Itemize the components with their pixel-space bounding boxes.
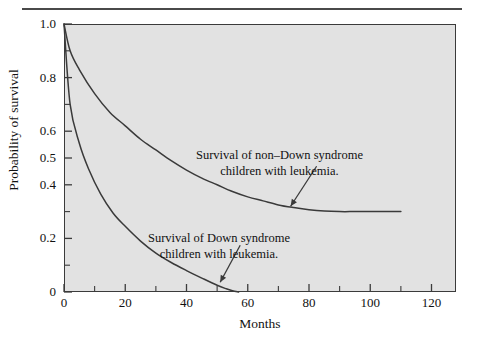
y-tick-label: 0.2 <box>4 231 56 244</box>
curve-series-0 <box>64 24 401 212</box>
x-tick-label: 40 <box>162 296 212 309</box>
annotation-non-down-syndrome-line2: children with leukemia. <box>196 164 363 180</box>
figure-container: 00.20.40.50.60.81.0 020406080100120 Prob… <box>0 0 483 346</box>
x-tick-label: 100 <box>345 296 395 309</box>
annotation-down-syndrome-line1: Survival of Down syndrome <box>148 231 290 247</box>
arrow-non-down-syndrome-head <box>291 199 297 206</box>
annotation-non-down-syndrome: Survival of non–Down syndrome children w… <box>196 148 363 179</box>
y-axis-title: Probability of survival <box>6 50 22 210</box>
x-tick-label: 60 <box>223 296 273 309</box>
annotation-arrows <box>220 166 316 282</box>
x-tick-label: 0 <box>39 296 89 309</box>
annotation-non-down-syndrome-line1: Survival of non–Down syndrome <box>196 148 363 164</box>
y-tick-label: 1.0 <box>4 17 56 30</box>
x-tick-label: 20 <box>100 296 150 309</box>
x-tick-label: 80 <box>284 296 334 309</box>
x-tick-label: 120 <box>407 296 457 309</box>
annotation-down-syndrome-line2: children with leukemia. <box>148 247 290 263</box>
annotation-down-syndrome: Survival of Down syndrome children with … <box>148 231 290 262</box>
x-axis-title: Months <box>64 316 456 332</box>
